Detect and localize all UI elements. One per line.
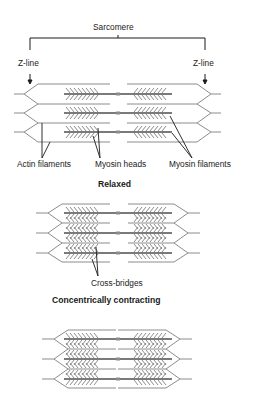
z-line-left-label: Z-line xyxy=(18,59,39,67)
myosin-heads-label: Myosin heads xyxy=(95,160,146,168)
z-line-right-label: Z-line xyxy=(193,59,214,67)
z-line-arrows xyxy=(28,74,207,84)
relaxed-pointers xyxy=(42,116,192,158)
actin-filaments-label: Actin filaments xyxy=(17,160,71,168)
sarcomere-bracket xyxy=(30,35,205,50)
myosin-filaments-label: Myosin filaments xyxy=(169,160,231,168)
sarcomere-label: Sarcomere xyxy=(93,23,134,31)
concentric-title: Concentrically contracting xyxy=(52,296,160,305)
cross-bridges-label: Cross-bridges xyxy=(91,279,143,287)
relaxed-title: Relaxed xyxy=(98,180,131,189)
